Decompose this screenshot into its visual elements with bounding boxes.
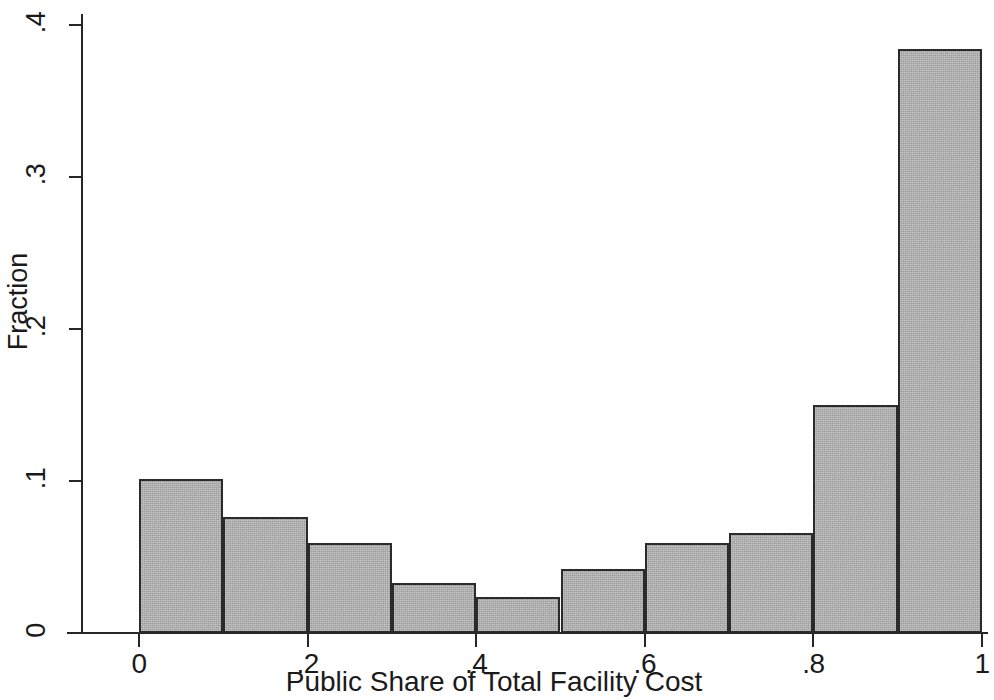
histogram-bar: [561, 569, 645, 633]
y-axis-tick-label: .1: [23, 459, 50, 499]
histogram-bar: [645, 543, 729, 633]
y-axis-tick: [69, 632, 82, 634]
x-axis-tick: [644, 634, 646, 647]
y-axis-tick: [69, 480, 82, 482]
x-axis-tick: [981, 634, 983, 647]
y-axis-tick-label: .4: [23, 3, 50, 43]
histogram-bar: [392, 583, 476, 633]
histogram-bar: [729, 533, 813, 633]
histogram-bar: [898, 49, 982, 633]
y-axis-tick: [69, 24, 82, 26]
histogram-bar: [223, 517, 307, 633]
x-axis-tick: [138, 634, 140, 647]
y-axis-tick: [69, 176, 82, 178]
y-axis-tick-label: 0: [23, 611, 50, 651]
x-axis-tick: [812, 634, 814, 647]
y-axis-tick-label: .3: [23, 155, 50, 195]
x-axis-tick: [475, 634, 477, 647]
x-axis-title: Public Share of Total Facility Cost: [0, 668, 988, 696]
histogram-bar: [476, 597, 560, 633]
histogram-bar: [139, 479, 223, 633]
y-axis-tick: [69, 328, 82, 330]
bars-layer: [0, 0, 988, 633]
x-axis-tick: [307, 634, 309, 647]
histogram-bar: [308, 543, 392, 633]
histogram-bar: [813, 405, 897, 633]
y-axis-title: Fraction: [5, 222, 32, 382]
